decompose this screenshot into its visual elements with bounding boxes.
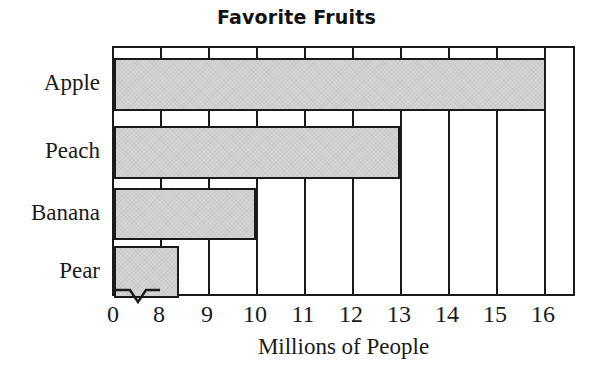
bar-apple[interactable] — [114, 58, 546, 111]
x-tick-label-13: 13 — [387, 300, 411, 328]
x-axis-tick-labels: 08910111213141516 — [0, 300, 593, 332]
bar-peach[interactable] — [114, 126, 400, 179]
x-tick-label-9: 9 — [201, 300, 213, 328]
x-tick-label-10: 10 — [243, 300, 267, 328]
category-axis-labels: ApplePeachBananaPear — [0, 46, 106, 296]
x-tick-label-16: 16 — [531, 300, 555, 328]
x-tick-label-8: 8 — [153, 300, 165, 328]
x-tick-label-0: 0 — [107, 300, 119, 328]
favorite-fruits-bar-chart: Favorite Fruits ApplePeachBananaPear 089… — [0, 0, 593, 378]
plot-area — [112, 46, 575, 296]
category-label-peach: Peach — [45, 139, 100, 162]
category-label-apple: Apple — [44, 71, 100, 94]
x-tick-label-12: 12 — [339, 300, 363, 328]
x-tick-label-14: 14 — [435, 300, 459, 328]
category-label-banana: Banana — [31, 201, 100, 224]
bar-banana[interactable] — [114, 188, 256, 240]
category-label-pear: Pear — [59, 259, 100, 282]
x-tick-label-11: 11 — [291, 300, 314, 328]
x-tick-label-15: 15 — [483, 300, 507, 328]
chart-title: Favorite Fruits — [0, 6, 593, 28]
x-axis-title: Millions of People — [112, 334, 575, 360]
